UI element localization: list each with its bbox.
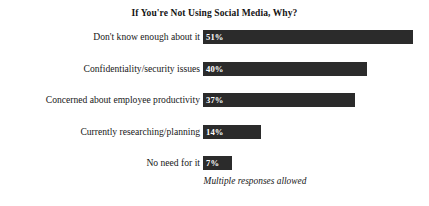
bar-category-label: Confidentiality/security issues — [0, 62, 200, 76]
bar-row: Confidentiality/security issues 40% — [0, 61, 429, 93]
bar-track: 37% — [203, 93, 355, 107]
bar-row: Don't know enough about it 51% — [0, 29, 429, 61]
bars-container: Don't know enough about it 51% Confident… — [0, 29, 429, 187]
bar-category-label: Concerned about employee productivity — [0, 93, 200, 107]
bar-value-label: 37% — [206, 93, 224, 107]
bar-value-label: 51% — [206, 30, 224, 44]
bar-row: Currently researching/planning 14% — [0, 124, 429, 156]
bar-fill: 40% — [203, 62, 367, 76]
bar-fill: 7% — [203, 156, 232, 170]
bar-category-label: Currently researching/planning — [0, 125, 200, 139]
bar-category-label: No need for it — [0, 156, 200, 170]
bar-track: 51% — [203, 30, 413, 44]
bar-fill: 37% — [203, 93, 355, 107]
chart-annotation: Multiple responses allowed — [175, 176, 335, 186]
bar-value-label: 40% — [206, 62, 224, 76]
bar-track: 14% — [203, 125, 261, 139]
bar-category-label: Don't know enough about it — [0, 30, 200, 44]
bar-track: 40% — [203, 62, 367, 76]
bar-value-label: 7% — [206, 156, 219, 170]
bar-fill: 51% — [203, 30, 413, 44]
bar-chart: If You're Not Using Social Media, Why? D… — [0, 0, 429, 206]
bar-row: Concerned about employee productivity 37… — [0, 92, 429, 124]
bar-value-label: 14% — [206, 125, 224, 139]
chart-title: If You're Not Using Social Media, Why? — [0, 8, 429, 18]
bar-fill: 14% — [203, 125, 261, 139]
bar-track: 7% — [203, 156, 232, 170]
